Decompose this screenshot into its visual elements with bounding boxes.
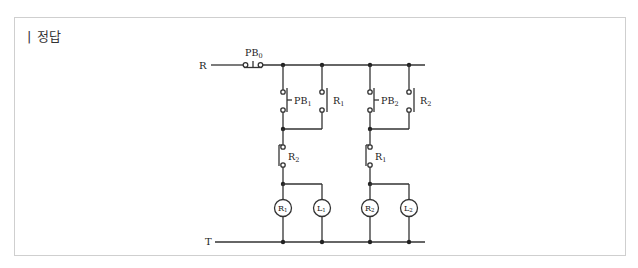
supply-label-r: R — [199, 60, 207, 71]
r2-holding-label: R2 — [420, 95, 431, 108]
r1-interlock-label: R1 — [375, 151, 386, 164]
r1-holding-label: R1 — [333, 95, 344, 108]
branch-1: PB1 R1 R2 R1 L1 — [275, 63, 345, 242]
pb0-label: PB0 — [245, 47, 263, 60]
supply-label-t: T — [205, 236, 212, 247]
pb0-switch — [243, 61, 263, 68]
pb1-label: PB1 — [294, 95, 312, 108]
branch-2: PB2 R2 R1 R2 L2 — [362, 63, 432, 242]
circuit-diagram: R PB0 PB1 R1 R2 — [0, 0, 638, 268]
pb2-label: PB2 — [381, 95, 399, 108]
r2-interlock-label: R2 — [288, 151, 299, 164]
